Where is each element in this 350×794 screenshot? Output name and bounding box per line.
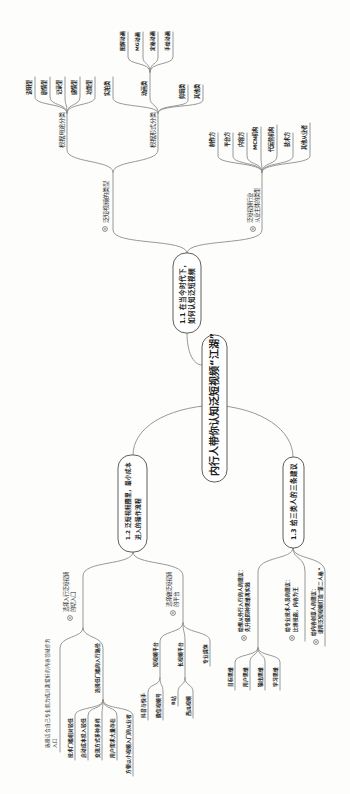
topic-1-1-label-line-2: 如何认知泛短视频 xyxy=(187,268,196,324)
leaf-label: 输出思维 xyxy=(257,667,264,687)
leaf-label: B站 xyxy=(170,696,177,705)
leaf-label: 实拍类 xyxy=(103,80,111,96)
subtopic-entry-point-line-2: 的切入口 xyxy=(69,592,77,612)
connector-leaf xyxy=(113,77,158,113)
leaf-label: MCN机构 xyxy=(251,127,259,150)
subtopic-video-types: 泛短视频的类型 xyxy=(102,181,110,231)
advice-label-line-2: 请用泛短视频打造“第二人格” xyxy=(317,568,324,634)
advice-label-line-1: 给内容创意人的建议： xyxy=(310,586,317,636)
leaf-label: 技术方 xyxy=(283,132,291,147)
advice-outsiders: 给想从外行入行的人的建议： 先升级四种思维再实践 xyxy=(237,567,252,640)
connector-types-by-use xyxy=(67,113,113,172)
connector-leaf xyxy=(150,72,158,113)
connector-1-2-entry xyxy=(83,552,133,628)
topic-marker-dot xyxy=(315,641,317,643)
topic-1-3: 1.3 给三类人的三条建议 xyxy=(283,457,304,548)
leaf-label: 入口 xyxy=(52,738,58,748)
advice-label-line-2: 先升级四种思维再实践 xyxy=(244,582,251,632)
leaf-label: 变现方式多种多样 xyxy=(94,718,101,758)
connector-leaf xyxy=(178,678,185,706)
leaf-label: 技术门槛相对较低 xyxy=(67,718,74,758)
topic-marker-dot xyxy=(172,612,174,614)
leaf-label: 微信视频号 xyxy=(155,693,162,719)
root-topic: 内行人带你认知泛短视频“江湖” xyxy=(202,333,227,482)
mind-map: 内行人带你认知泛短视频“江湖” 1.1 在当今时代下， 如何认知泛短视频 泛短视… xyxy=(0,0,350,794)
leaf-label: 短视频平台 xyxy=(152,642,159,667)
leaf-label: 感情型 xyxy=(70,79,78,95)
leaf-label: 功能型 xyxy=(85,79,93,95)
leaf-label: 用户思维 xyxy=(242,667,249,688)
subtopic-platform-line-1: 选择做泛短视频 xyxy=(165,571,173,607)
topic-1-2-label-line-1: 1.2 泛短视频圈里，最小成本 xyxy=(124,462,132,540)
leaf-label: 记录型 xyxy=(55,79,63,95)
leaf-label: 定格动画 xyxy=(149,31,156,51)
subtopic-by-form-label: 根据形式分类 xyxy=(149,112,157,148)
connector-leaf xyxy=(65,77,67,113)
leaf-label: 剧情型 xyxy=(40,79,48,96)
subtopic-platform: 选择做泛短视频 的平台 xyxy=(165,571,180,615)
connector-1-1-types xyxy=(113,172,187,253)
advice-creatives: 给内容创意人的建议： 请用泛短视频打造“第二人格” xyxy=(310,568,324,645)
subtopic-entry-point-line-1: 选择入行泛短视频 xyxy=(62,571,70,612)
leaf-label: 其他类 xyxy=(193,83,201,99)
advice-label-line-1: 给想从外行入行的人的建议： xyxy=(237,567,244,632)
leaf-label: 剪辑类 xyxy=(178,83,186,99)
leaf-label: 图解动画 xyxy=(119,31,126,51)
leaf-label: 动画类 xyxy=(140,80,148,96)
leaf-label: 其他从业者 xyxy=(300,124,308,150)
leaf-label: MG动画 xyxy=(134,32,141,51)
leaf-label: 制作方 xyxy=(208,132,216,147)
advice-label-line-1: 给专业技术人员的建议： xyxy=(284,577,291,632)
leaf-label: 西瓜视频 xyxy=(185,696,192,716)
leaf-label: 学习思维 xyxy=(272,667,279,687)
leaf-label: 选择适合自己专业能力或兴趣爱好的内容领域作为 xyxy=(44,638,51,748)
topic-marker-dot xyxy=(104,228,106,230)
subtopic-video-types-label: 泛短视频的类型 xyxy=(102,181,110,223)
leaf-label: 抖音与快手 xyxy=(140,693,147,718)
leaf-label: 平台方 xyxy=(223,132,231,147)
leaf-label: 目标思维 xyxy=(227,667,234,687)
topic-marker-dot xyxy=(243,637,245,639)
leaf-label: 说明型 xyxy=(25,79,33,95)
topic-marker-dot xyxy=(291,637,293,639)
leaf-label: 手绘动画 xyxy=(164,31,171,51)
leaf-label: 专业媒体 xyxy=(202,644,209,664)
topic-1-2-label-line-2: 进入的操作流程 xyxy=(134,498,142,540)
leaf-label: 代运营机构 xyxy=(267,127,275,153)
subtopic-entry-point: 选择入行泛短视频 的切入口 xyxy=(62,571,77,620)
topic-1-1-label-line-1: 1.1 在当今时代下， xyxy=(178,261,187,324)
subtopic-industry-players: 泛短视频行业 从业主体的类型 xyxy=(246,187,261,231)
leaf-label: 方便以小视频入门的从业者 xyxy=(125,714,132,774)
advice-label-line-2: 比拼技能，内容为王 xyxy=(292,587,299,632)
subtopic-industry-players-line-1: 泛短视频行业 xyxy=(246,192,254,223)
advice-technicians: 给专业技术人员的建议： 比拼技能，内容为王 xyxy=(284,577,299,640)
topic-1-2-box xyxy=(118,455,147,552)
leaf-label: 用户需求大量存在 xyxy=(109,718,116,759)
topic-1-3-label: 1.3 给三类人的三条建议 xyxy=(289,463,298,540)
leaf-label: 启动成本投入较低 xyxy=(80,718,87,758)
connector-leaf xyxy=(83,628,103,700)
topic-1-1-box xyxy=(173,253,201,333)
subtopic-platform-line-2: 的平台 xyxy=(172,592,180,607)
root-topic-label: 内行人带你认知泛短视频“江湖” xyxy=(208,333,220,476)
leaf-label: 内容方 xyxy=(237,132,245,147)
subtopic-industry-players-line-2: 从业主体的类型 xyxy=(253,187,261,223)
topic-marker-dot xyxy=(252,228,254,230)
connector-leaf xyxy=(102,700,103,760)
connector-leaf xyxy=(35,77,67,113)
connector-leaf xyxy=(261,127,262,172)
topic-1-1: 1.1 在当今时代下， 如何认知泛短视频 xyxy=(173,253,201,333)
connector-root-1-1 xyxy=(187,333,202,365)
topic-1-2: 1.2 泛短视频圈里，最小成本 进入的操作流程 xyxy=(118,455,147,552)
topic-marker-dot xyxy=(69,617,71,619)
leaf-label: 选择低门槛的入行路径 xyxy=(94,643,101,693)
leaf-label: 长视频平台 xyxy=(177,642,184,667)
subtopic-by-use-label: 根据用途分类 xyxy=(58,112,66,148)
connector-leaf xyxy=(183,623,185,678)
